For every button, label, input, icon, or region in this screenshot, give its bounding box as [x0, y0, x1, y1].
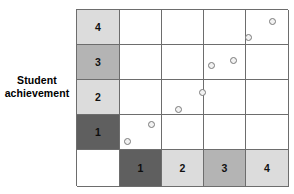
y-axis-tick-1: 1	[77, 115, 120, 150]
plot-cell-r1-c2	[162, 115, 204, 150]
plot-cell-r4-c2	[162, 10, 204, 45]
x-axis-tick-3: 3	[204, 150, 246, 187]
axis-corner-cell	[77, 150, 120, 187]
plot-cell-r2-c2	[162, 80, 204, 115]
y-axis-tick-4: 4	[77, 10, 120, 45]
x-axis-tick-4: 4	[246, 150, 289, 187]
plot-cell-r2-c3	[204, 80, 246, 115]
x-axis-tick-1: 1	[120, 150, 162, 187]
plot-cell-r4-c3	[204, 10, 246, 45]
y-axis-caption: Student achievement	[0, 74, 74, 100]
x-axis-tick-2: 2	[162, 150, 204, 187]
y-axis-caption-line-2: achievement	[0, 87, 74, 100]
y-axis-tick-3: 3	[77, 45, 120, 80]
plot-cell-r2-c1	[120, 80, 162, 115]
plot-cell-r3-c2	[162, 45, 204, 80]
figure-root: Student achievement 4 3 2 1 1 2 3 4	[0, 0, 294, 194]
y-axis-caption-line-1: Student	[0, 74, 74, 87]
plot-cell-r1-c1	[120, 115, 162, 150]
plot-cell-r3-c4	[246, 45, 289, 80]
y-axis-tick-2: 2	[77, 80, 120, 115]
plot-cell-r1-c4	[246, 115, 289, 150]
plot-cell-r2-c4	[246, 80, 289, 115]
plot-cell-r4-c1	[120, 10, 162, 45]
plot-cell-r1-c3	[204, 115, 246, 150]
plot-cell-r3-c3	[204, 45, 246, 80]
plot-cell-r3-c1	[120, 45, 162, 80]
plot-cell-r4-c4	[246, 10, 289, 45]
achievement-matrix: 4 3 2 1 1 2 3 4	[76, 9, 288, 186]
